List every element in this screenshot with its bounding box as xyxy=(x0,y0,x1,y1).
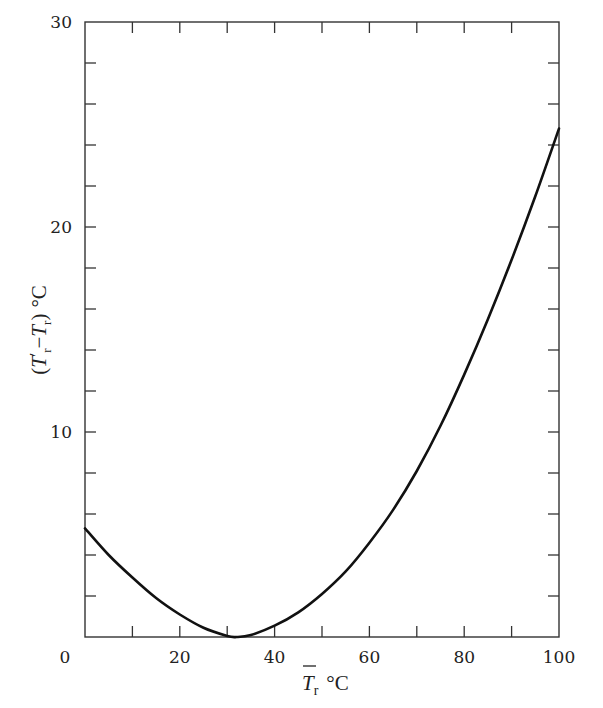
x-axis-title: Tr°C xyxy=(302,671,349,698)
plot-border xyxy=(85,22,559,637)
x-axis-subscript: r xyxy=(314,683,319,698)
chart-figure: 020406080100 102030 Tr°C (T′r−Tr)°C xyxy=(0,0,603,708)
x-tick-label: 20 xyxy=(169,647,191,667)
svg-text:(T′r−Tr)°C: (T′r−Tr)°C xyxy=(27,285,54,375)
y-tick-label: 10 xyxy=(50,422,72,442)
x-tick-label: 80 xyxy=(453,647,475,667)
x-tick-label: 40 xyxy=(264,647,286,667)
y-tick-label: 20 xyxy=(50,217,72,237)
data-curve xyxy=(85,129,559,638)
x-tick-labels: 020406080100 xyxy=(60,647,576,667)
x-tick-label: 60 xyxy=(359,647,381,667)
axis-ticks xyxy=(85,22,559,637)
y-axis-unit: °C xyxy=(27,285,51,307)
y-tick-labels: 102030 xyxy=(50,12,72,442)
plot-frame xyxy=(85,22,559,637)
y-tick-label: 30 xyxy=(50,12,72,32)
y-axis-title: (T′r−Tr)°C xyxy=(27,285,54,375)
x-tick-label: 0 xyxy=(60,647,71,667)
x-axis-unit: °C xyxy=(326,671,348,695)
x-tick-label: 100 xyxy=(543,647,575,667)
